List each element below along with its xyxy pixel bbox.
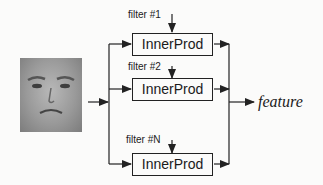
inner-product-box-n: InnerProd <box>132 153 213 176</box>
inner-product-box-2: InnerProd <box>132 78 213 101</box>
filter-label-n: filter #N <box>126 134 160 146</box>
diagram-canvas: filter #1 InnerProd filter #2 InnerProd … <box>0 0 323 185</box>
filter-label-1: filter #1 <box>128 9 161 21</box>
output-feature-label: feature <box>258 93 303 111</box>
face-image <box>20 58 82 132</box>
filter-label-2: filter #2 <box>128 61 161 73</box>
inner-product-box-1: InnerProd <box>132 33 213 56</box>
face-features <box>20 58 82 132</box>
